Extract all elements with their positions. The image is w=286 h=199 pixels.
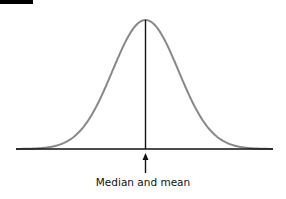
arrow-head-icon [143, 153, 149, 160]
median-mean-label: Median and mean [0, 176, 286, 188]
bell-curve [16, 20, 273, 149]
normal-curve-diagram [0, 0, 286, 199]
